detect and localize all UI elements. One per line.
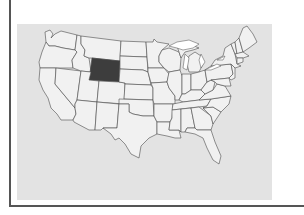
state-montana[interactable] [81, 36, 121, 61]
us-map [17, 24, 272, 200]
state-north-dakota[interactable] [120, 41, 147, 57]
state-arkansas[interactable] [154, 104, 173, 122]
state-arizona[interactable] [73, 100, 97, 130]
frame-left-border [9, 0, 11, 207]
state-wyoming[interactable] [89, 58, 120, 82]
state-nebraska[interactable] [119, 69, 151, 85]
state-maine[interactable] [239, 26, 257, 52]
state-connecticut[interactable] [237, 58, 243, 64]
state-new-mexico[interactable] [95, 102, 119, 130]
state-florida[interactable] [185, 128, 221, 164]
frame-bottom-border [9, 205, 304, 207]
map-panel [17, 24, 272, 200]
state-iowa[interactable] [148, 68, 169, 83]
state-kansas[interactable] [124, 84, 153, 100]
